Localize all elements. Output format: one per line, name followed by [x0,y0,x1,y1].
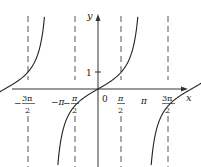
tangent-graph: y x 1 0 − 3π 2 −π − π 2 π 2 π 3π 2 [0,0,201,167]
svg-text:−: − [14,98,22,108]
svg-text:−: − [63,98,71,108]
axes [12,18,186,167]
origin-label: 0 [102,94,108,104]
svg-text:3π: 3π [162,94,172,103]
x-tick-label-pi: π [140,96,148,106]
x-axis-arrow-icon [181,87,188,92]
x-tick-label-neg-3pi-2: − 3π 2 [14,94,35,115]
y-axis-arrow-icon [96,14,101,21]
y-tick-label-1: 1 [86,68,92,78]
svg-text:π: π [71,94,78,103]
tan-branch-right [151,17,201,165]
tan-branch-left [0,17,44,165]
svg-text:π: π [117,94,124,103]
x-tick-label-pi-2: π 2 [117,94,125,115]
svg-text:3π: 3π [22,94,32,103]
x-axis-label: x [186,92,192,103]
svg-text:2: 2 [118,106,123,115]
tan-curves [0,17,201,165]
y-axis-label: y [86,10,93,21]
svg-text:2: 2 [25,106,30,115]
svg-text:2: 2 [72,106,77,115]
svg-text:2: 2 [165,106,170,115]
